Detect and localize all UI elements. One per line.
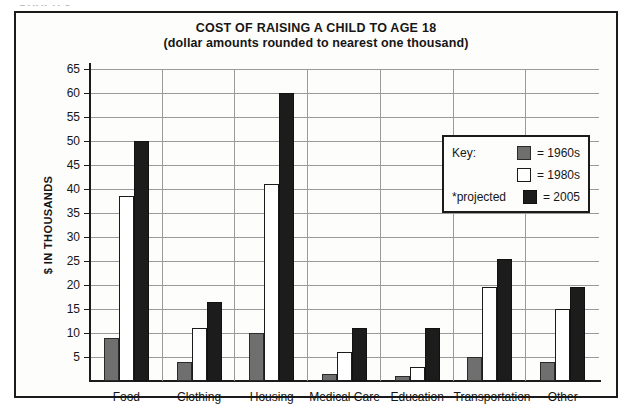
x-axis-category-label: Other xyxy=(526,390,599,404)
bar-group: Other xyxy=(526,69,599,381)
bar-1960s xyxy=(322,374,337,381)
legend-projected-note: *projected xyxy=(452,190,523,204)
bar-group: Medical Care xyxy=(308,69,381,381)
bar-group: Transportation xyxy=(454,69,527,381)
x-axis-category-label: Transportation xyxy=(454,390,527,404)
bar-stack xyxy=(163,69,236,381)
y-axis-tick-label: 15 xyxy=(67,302,80,316)
legend-row-2005: *projected = 2005 xyxy=(452,186,580,208)
bar-1980s xyxy=(555,309,570,381)
bar-1980s xyxy=(410,367,425,381)
y-axis-tick-label: 25 xyxy=(67,254,80,268)
legend-key-label: Key: xyxy=(452,146,517,160)
y-axis-tick-label: 5 xyxy=(73,350,80,364)
bar-1960s xyxy=(177,362,192,381)
bar-2005 xyxy=(570,287,585,381)
legend-swatch-2005-icon xyxy=(523,190,537,204)
bar-2005 xyxy=(497,259,512,381)
legend-swatch-1960s-icon xyxy=(517,146,531,160)
bar-group: Food xyxy=(90,69,163,381)
y-axis-tick-label: 10 xyxy=(67,326,80,340)
y-axis-tick-label: 60 xyxy=(67,86,80,100)
plot-area: 5101520253035404550556065 FoodClothingHo… xyxy=(90,69,599,381)
bar-1980s xyxy=(119,196,134,381)
y-axis-tick-label: 50 xyxy=(67,134,80,148)
bar-stack xyxy=(90,69,163,381)
legend-label-2005: = 2005 xyxy=(543,190,580,204)
legend-label-1980s: = 1980s xyxy=(537,168,580,182)
bar-group: Housing xyxy=(235,69,308,381)
bar-1960s xyxy=(395,376,410,381)
bar-stack xyxy=(235,69,308,381)
y-axis-title: $ IN THOUSANDS xyxy=(40,69,56,381)
x-axis-category-label: Medical Care xyxy=(308,390,381,404)
y-axis-tick-label: 55 xyxy=(67,110,80,124)
bar-1980s xyxy=(482,287,497,381)
bar-stack xyxy=(381,69,454,381)
x-axis-category-label: Housing xyxy=(235,390,308,404)
y-axis-tick-label: 45 xyxy=(67,158,80,172)
y-axis-tick-label: 65 xyxy=(67,62,80,76)
bar-2005 xyxy=(207,302,222,381)
bar-2005 xyxy=(279,93,294,381)
legend-row-1980s: = 1980s xyxy=(452,164,580,186)
bar-2005 xyxy=(134,141,149,381)
bar-stack xyxy=(454,69,527,381)
y-axis-tick-label: 35 xyxy=(67,206,80,220)
bar-1980s xyxy=(192,328,207,381)
bar-stack xyxy=(526,69,599,381)
y-axis-title-text: $ IN THOUSANDS xyxy=(42,176,54,275)
legend-row-1960s: Key: = 1960s xyxy=(452,142,580,164)
bar-1960s xyxy=(540,362,555,381)
legend-swatch-1980s-icon xyxy=(517,168,531,182)
chart-figure: COST OF RAISING A CHILD TO AGE 18 (dolla… xyxy=(14,11,618,398)
chart-title: COST OF RAISING A CHILD TO AGE 18 xyxy=(16,21,616,36)
figure-caption: GRAPH 5 xyxy=(18,0,71,8)
x-axis-category-label: Clothing xyxy=(163,390,236,404)
bar-1960s xyxy=(249,333,264,381)
bar-1980s xyxy=(264,184,279,381)
chart-title-block: COST OF RAISING A CHILD TO AGE 18 (dolla… xyxy=(16,21,616,51)
x-axis-category-label: Education xyxy=(381,390,454,404)
legend-label-1960s: = 1960s xyxy=(537,146,580,160)
bar-2005 xyxy=(425,328,440,381)
bar-group: Clothing xyxy=(163,69,236,381)
bar-stack xyxy=(308,69,381,381)
bar-group: Education xyxy=(381,69,454,381)
y-axis-tick-label: 30 xyxy=(67,230,80,244)
y-axis-tick-label: 20 xyxy=(67,278,80,292)
bar-1960s xyxy=(467,357,482,381)
y-axis-tick-label: 40 xyxy=(67,182,80,196)
x-axis-category-label: Food xyxy=(90,390,163,404)
bar-2005 xyxy=(352,328,367,381)
chart-subtitle: (dollar amounts rounded to nearest one t… xyxy=(16,36,616,51)
bar-1960s xyxy=(104,338,119,381)
legend-box: Key: = 1960s = 1980s *projected = 2005 xyxy=(442,135,590,213)
bar-1980s xyxy=(337,352,352,381)
